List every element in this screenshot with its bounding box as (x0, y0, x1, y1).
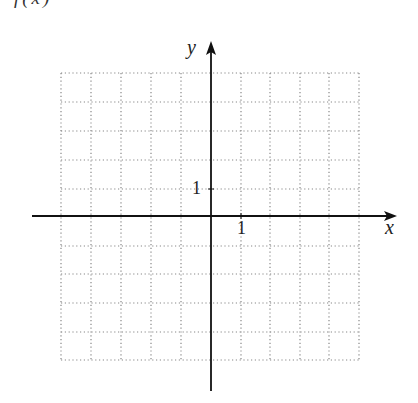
y-axis-label: y (187, 36, 196, 59)
graph-canvas: f(x) (0, 0, 418, 403)
coordinate-plane (0, 0, 418, 403)
x-axis-label: x (385, 216, 394, 239)
axes (32, 50, 388, 391)
x-tick-label: 1 (237, 218, 246, 239)
y-tick-label: 1 (192, 178, 201, 199)
